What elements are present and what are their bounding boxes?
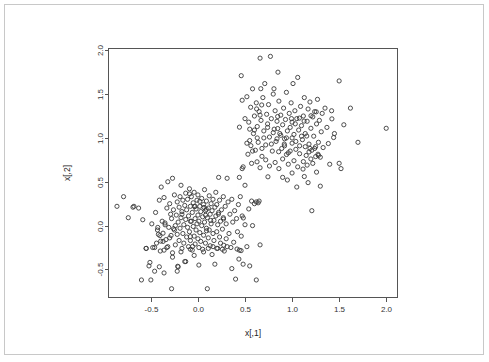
data-point <box>162 271 166 275</box>
data-point <box>115 204 119 208</box>
data-point <box>221 195 225 199</box>
data-point <box>241 262 245 266</box>
data-point <box>202 188 206 192</box>
data-point <box>301 167 305 171</box>
data-point <box>199 209 203 213</box>
data-point <box>277 99 281 103</box>
data-point <box>274 139 278 143</box>
data-point <box>258 56 262 60</box>
data-point <box>288 125 292 129</box>
data-point <box>314 170 318 174</box>
data-point <box>263 81 267 85</box>
data-point <box>223 204 227 208</box>
data-point <box>356 140 360 144</box>
data-point <box>249 161 253 165</box>
data-point <box>342 123 346 127</box>
data-point <box>310 209 314 213</box>
data-point <box>319 130 323 134</box>
data-point <box>297 116 301 120</box>
data-point <box>289 101 293 105</box>
data-point <box>240 98 244 102</box>
plot-canvas: -0.50.00.51.01.52.0 -0.50.00.51.01.52.0 … <box>0 0 489 362</box>
data-point <box>217 235 221 239</box>
data-point <box>198 231 202 235</box>
y-tick-label: 1.0 <box>96 132 105 144</box>
data-point <box>264 158 268 162</box>
data-point <box>284 90 288 94</box>
data-point <box>192 190 196 194</box>
data-point <box>249 144 253 148</box>
data-point <box>290 136 294 140</box>
data-point <box>348 106 352 110</box>
data-point <box>217 175 221 179</box>
data-point <box>332 131 336 135</box>
data-point <box>235 230 239 234</box>
data-point <box>177 205 181 209</box>
data-point <box>209 202 213 206</box>
data-point <box>187 230 191 234</box>
data-point <box>339 167 343 171</box>
data-point <box>330 109 334 113</box>
data-point <box>252 114 256 118</box>
data-point <box>183 203 187 207</box>
data-point <box>239 74 243 78</box>
data-point <box>320 111 324 115</box>
data-point <box>308 100 312 104</box>
data-point <box>231 220 235 224</box>
data-point <box>325 125 329 129</box>
data-point <box>225 176 229 180</box>
data-point <box>275 137 279 141</box>
data-point <box>248 127 252 131</box>
data-point <box>233 277 237 281</box>
x-axis-title: x[,1] <box>245 328 261 338</box>
y-tick-label: 0.5 <box>96 176 105 188</box>
data-point <box>193 242 197 246</box>
data-point <box>153 210 157 214</box>
data-point <box>139 278 143 282</box>
data-point <box>296 75 300 79</box>
data-point <box>196 193 200 197</box>
data-point <box>271 92 275 96</box>
data-point <box>315 97 319 101</box>
data-point <box>250 149 254 153</box>
data-point <box>303 145 307 149</box>
data-point <box>294 139 298 143</box>
data-point <box>243 223 247 227</box>
y-tick-label: 0.0 <box>96 220 105 232</box>
data-point <box>337 79 341 83</box>
data-point <box>330 117 334 121</box>
data-point <box>175 200 179 204</box>
data-point <box>153 269 157 273</box>
y-axis-title: x[,2] <box>62 165 72 181</box>
data-point <box>169 212 173 216</box>
x-tick-label: -0.5 <box>145 305 159 314</box>
data-point <box>253 148 257 152</box>
data-point <box>210 252 214 256</box>
data-point <box>297 128 301 132</box>
data-point <box>172 193 176 197</box>
data-point <box>255 107 259 111</box>
data-point <box>161 231 165 235</box>
data-point <box>277 150 281 154</box>
data-point <box>149 278 153 282</box>
data-point <box>262 129 266 133</box>
data-point <box>250 87 254 91</box>
data-point <box>150 222 154 226</box>
data-point <box>302 96 306 100</box>
data-point <box>170 251 174 255</box>
data-point <box>246 152 250 156</box>
data-point <box>299 124 303 128</box>
data-point <box>312 134 316 138</box>
data-point <box>185 225 189 229</box>
data-point <box>295 185 299 189</box>
data-point <box>179 183 183 187</box>
data-point <box>243 117 247 121</box>
data-point <box>215 230 219 234</box>
data-point <box>301 114 305 118</box>
data-point <box>175 269 179 273</box>
data-point <box>269 142 273 146</box>
data-point <box>273 109 277 113</box>
data-point <box>287 111 291 115</box>
data-point <box>296 165 300 169</box>
data-point <box>254 278 258 282</box>
